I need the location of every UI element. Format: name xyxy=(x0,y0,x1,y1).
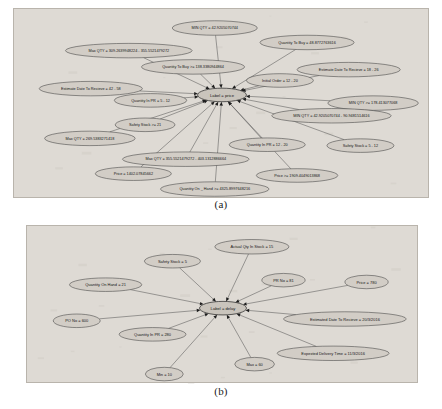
graph-node[interactable]: MIN QTY = 42.9205070744 xyxy=(172,21,257,35)
graph-edge xyxy=(216,35,221,84)
paper-texture-fleck xyxy=(391,268,400,271)
node-shape xyxy=(45,131,135,145)
paper-texture-fleck xyxy=(55,167,63,169)
graph-edge xyxy=(200,74,212,86)
paper-texture-fleck xyxy=(216,46,222,48)
node-shape xyxy=(283,312,406,326)
graph-node[interactable]: Initial Order = 12 - 20 xyxy=(246,74,313,88)
graph-node[interactable]: Max = 60 xyxy=(235,357,275,371)
paper-texture-fleck xyxy=(269,16,271,17)
figure-b-caption: (b) xyxy=(0,385,442,397)
node-shape xyxy=(260,35,354,49)
paper-texture-fleck xyxy=(180,294,190,297)
node-shape xyxy=(277,346,389,360)
graph-node[interactable]: Quantity To Buy >= 138.3380944864 xyxy=(141,60,244,74)
node-shape xyxy=(327,139,394,153)
node-shape xyxy=(115,118,175,132)
graph-node[interactable]: Actual Qty In Stock = 15 xyxy=(215,240,289,254)
node-shape xyxy=(215,240,289,254)
graph-node[interactable]: Quantity On Hand = 21 xyxy=(70,278,142,292)
graph-edge xyxy=(231,104,262,138)
graph-node[interactable]: Quantity In PR = 12 - 20 xyxy=(229,138,305,152)
node-shape xyxy=(145,367,183,381)
graph-node[interactable]: MIN QTY >= 178.413077068 xyxy=(328,96,418,110)
graph-node[interactable]: Max QTY = 309.2639948224 - 355.552147927… xyxy=(65,43,192,57)
center-node-shape xyxy=(200,301,247,315)
graph-node[interactable]: Quantity To Buy = 48.8772763616 xyxy=(260,35,354,49)
graph-edge xyxy=(215,106,221,182)
figure-a-graph: MIN QTY = 42.9205070744Quantity To Buy =… xyxy=(14,9,430,199)
edge-arrowhead xyxy=(219,102,222,106)
node-shape xyxy=(95,167,171,181)
graph-node[interactable]: Safety Stock >= 21 xyxy=(115,118,175,132)
paper-texture-fleck xyxy=(69,71,78,73)
graph-node[interactable]: Price = 780 xyxy=(345,275,388,289)
graph-node[interactable]: Quantity In PR = 5 - 12 xyxy=(114,94,186,108)
graph-node[interactable]: PO No = 600 xyxy=(53,314,100,328)
node-shape xyxy=(141,60,244,74)
node-shape xyxy=(272,109,391,123)
graph-node[interactable]: Estimate Date To Recieve = 42 - 58 xyxy=(39,81,142,95)
paper-texture-fleck xyxy=(229,290,238,292)
center-node-shape xyxy=(198,88,247,102)
graph-node[interactable]: MIN QTY = 42.9205070744 - 90.9481514616 xyxy=(272,109,391,123)
graph-node[interactable]: Min = 10 xyxy=(145,367,183,381)
graph-center-node[interactable]: Label = price xyxy=(198,88,247,102)
node-shape xyxy=(328,96,418,110)
graph-node[interactable]: Quantity In PR = 280 xyxy=(119,328,186,342)
graph-node[interactable]: Safety Stock = 5 xyxy=(144,254,200,268)
graph-edge xyxy=(246,99,299,109)
paper-texture-fleck xyxy=(38,357,44,359)
graph-edge xyxy=(239,286,272,301)
paper-texture-fleck xyxy=(160,253,165,255)
figure-a: MIN QTY = 42.9205070744Quantity To Buy =… xyxy=(0,0,442,213)
edge-arrowhead xyxy=(215,102,218,106)
graph-center-node[interactable]: Label = delay xyxy=(200,301,247,315)
graph-node[interactable]: Max QTY = 355.5521479272 - 403.131288666… xyxy=(122,152,249,166)
node-shape xyxy=(172,21,257,35)
edge-arrowhead xyxy=(232,85,236,88)
graph-edge xyxy=(140,91,195,94)
graph-node[interactable]: Estimated Date To Recieve = 20/3/2016 xyxy=(283,312,406,326)
paper-texture-fleck xyxy=(201,336,208,338)
paper-texture-fleck xyxy=(310,279,315,281)
node-shape xyxy=(70,278,142,292)
paper-texture-fleck xyxy=(221,377,225,378)
node-shape xyxy=(114,94,186,108)
paper-texture-fleck xyxy=(50,309,57,311)
graph-node[interactable]: PR No = 81 xyxy=(262,273,305,287)
edge-arrowhead xyxy=(227,315,230,319)
node-shape xyxy=(53,314,100,328)
paper-texture-fleck xyxy=(119,346,121,347)
graph-node[interactable]: Estimate Date To Recieve = 18 - 26 xyxy=(297,62,400,76)
graph-node[interactable]: Safety Stock = 5 - 12 xyxy=(327,139,394,153)
edge-arrowhead xyxy=(219,84,222,88)
paper-texture-fleck xyxy=(364,21,368,22)
figure-a-caption: (a) xyxy=(0,198,442,210)
paper-texture-fleck xyxy=(283,96,286,97)
graph-node[interactable]: Expexted Delivery Time = 11/3/2016 xyxy=(277,346,389,360)
graph-edge xyxy=(228,254,249,298)
node-shape xyxy=(235,357,275,371)
graph-node[interactable]: Quantity On _ Hand >= 4325.8997648216 xyxy=(160,182,269,196)
paper-texture-fleck xyxy=(311,52,319,54)
figure-b-graph: Actual Qty In Stock = 15Safety Stock = 5… xyxy=(27,226,419,384)
node-shape xyxy=(345,275,388,289)
node-shape xyxy=(246,74,313,88)
node-shape xyxy=(297,62,400,76)
graph-edge xyxy=(249,310,296,314)
paper-texture-fleck xyxy=(79,264,87,266)
paper-texture-fleck xyxy=(391,183,397,185)
paper-texture-fleck xyxy=(269,372,272,373)
figure-b-panel: Actual Qty In Stock = 15Safety Stock = 5… xyxy=(26,225,418,383)
graph-node[interactable]: Max QTY = 269.5383271418 xyxy=(45,131,135,145)
paper-texture-fleck xyxy=(203,142,208,144)
paper-texture-fleck xyxy=(290,238,298,240)
node-shape xyxy=(144,254,200,268)
paper-texture-fleck xyxy=(249,331,255,333)
graph-node[interactable]: Price >= 1909.4049013868 xyxy=(256,169,337,183)
graph-node[interactable]: Price = 1402.07845662 xyxy=(95,167,171,181)
paper-texture-fleck xyxy=(82,152,92,155)
node-shape xyxy=(65,43,192,57)
paper-texture-fleck xyxy=(351,362,358,364)
